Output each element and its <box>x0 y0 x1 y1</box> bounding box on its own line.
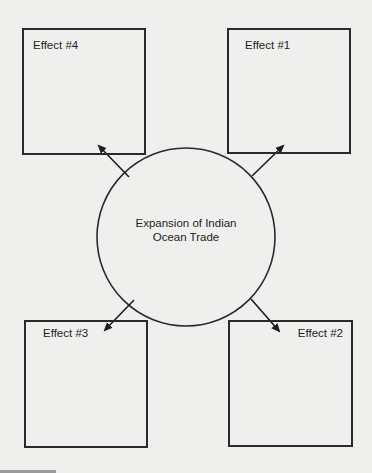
effect-3-box[interactable]: Effect #3 <box>24 320 148 448</box>
effect-1-label: Effect #1 <box>245 39 290 51</box>
effect-1-box[interactable]: Effect #1 <box>227 28 351 154</box>
effect-4-label: Effect #4 <box>33 39 78 51</box>
effect-2-box[interactable]: Effect #2 <box>228 320 353 447</box>
central-topic-line-1: Expansion of Indian <box>106 216 266 230</box>
effect-3-label: Effect #3 <box>43 327 88 339</box>
central-topic-line-2: Ocean Trade <box>106 230 266 244</box>
effect-2-label: Effect #2 <box>298 327 343 339</box>
effect-4-box[interactable]: Effect #4 <box>22 28 146 155</box>
graphic-organizer: Effect #4 Effect #1 Effect #3 Effect #2 … <box>0 0 372 473</box>
central-topic: Expansion of Indian Ocean Trade <box>106 216 266 244</box>
